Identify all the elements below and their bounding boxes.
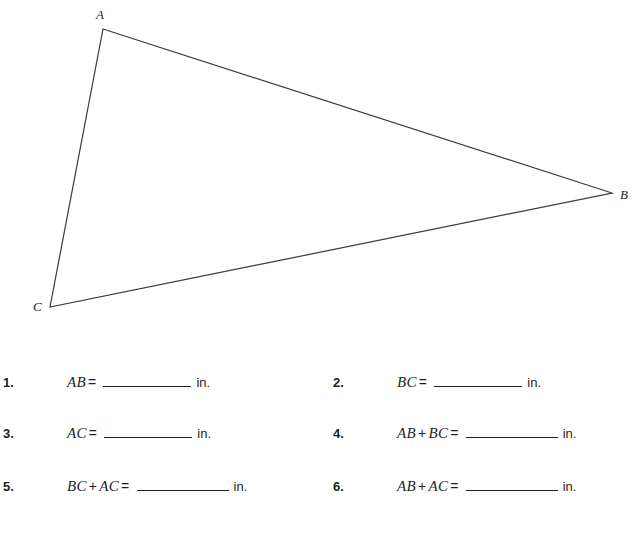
equals-sign: = — [87, 425, 99, 441]
exercise-item-2: 2. BC = in. — [333, 374, 541, 400]
exercise-row: 1. AB = in. 2. BC = in. — [0, 374, 642, 425]
exercise-list: 1. AB = in. 2. BC = in. 3. AC = in. 4. A… — [0, 372, 642, 540]
equals-sign: = — [86, 374, 98, 390]
exercise-number: 2. — [333, 375, 397, 390]
exercise-item-6: 6. AB + AC = in. — [333, 478, 576, 504]
equals-sign: = — [119, 478, 131, 494]
exercise-operand-left: AB — [397, 478, 416, 495]
exercise-operand-right: AC — [428, 478, 448, 495]
equals-sign: = — [417, 374, 429, 390]
exercise-item-5: 5. BC + AC = in. — [3, 478, 247, 504]
vertex-label-c: C — [33, 300, 42, 313]
exercise-number: 4. — [333, 426, 397, 441]
answer-blank-4[interactable] — [466, 437, 558, 438]
exercise-number: 1. — [3, 375, 67, 390]
unit-label: in. — [527, 375, 541, 390]
exercise-item-1: 1. AB = in. — [3, 374, 210, 400]
unit-label: in. — [563, 426, 577, 441]
exercise-number: 6. — [333, 479, 397, 494]
exercise-item-4: 4. AB + BC = in. — [333, 425, 576, 451]
triangle-drawing — [0, 0, 642, 360]
exercise-row: 5. BC + AC = in. 6. AB + AC = in. — [0, 478, 642, 529]
exercise-operand-left: AB — [397, 425, 416, 442]
equals-sign: = — [448, 478, 460, 494]
unit-label: in. — [563, 479, 577, 494]
answer-blank-3[interactable] — [104, 437, 192, 438]
plus-sign: + — [416, 425, 428, 441]
exercise-number: 5. — [3, 479, 67, 494]
exercise-operand-right: BC — [428, 425, 448, 442]
exercise-row: 3. AC = in. 4. AB + BC = in. — [0, 425, 642, 476]
exercise-operand-left: AC — [67, 425, 87, 442]
answer-blank-5[interactable] — [137, 490, 229, 491]
plus-sign: + — [416, 478, 428, 494]
equals-sign: = — [448, 425, 460, 441]
triangle-figure: A B C — [0, 0, 642, 360]
answer-blank-6[interactable] — [466, 490, 558, 491]
vertex-label-b: B — [620, 188, 628, 201]
exercise-operand-left: BC — [397, 374, 417, 391]
unit-label: in. — [234, 479, 248, 494]
exercise-item-3: 3. AC = in. — [3, 425, 211, 451]
unit-label: in. — [196, 375, 210, 390]
exercise-operand-left: BC — [67, 478, 87, 495]
triangle-outline — [50, 29, 612, 307]
plus-sign: + — [87, 478, 99, 494]
answer-blank-1[interactable] — [103, 386, 191, 387]
vertex-label-a: A — [96, 8, 104, 21]
answer-blank-2[interactable] — [434, 386, 522, 387]
exercise-operand-left: AB — [67, 374, 86, 391]
unit-label: in. — [197, 426, 211, 441]
exercise-number: 3. — [3, 426, 67, 441]
exercise-operand-right: AC — [99, 478, 119, 495]
